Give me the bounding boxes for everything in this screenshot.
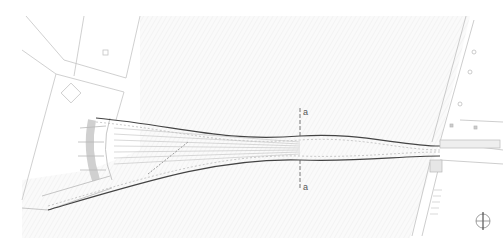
- site-plan-drawing: a a: [0, 0, 503, 241]
- svg-text:a: a: [303, 182, 308, 192]
- north-arrow-icon: [476, 212, 490, 230]
- diamond-marker: [61, 83, 81, 103]
- small-square-marker: [103, 50, 108, 55]
- svg-text:a: a: [303, 107, 308, 117]
